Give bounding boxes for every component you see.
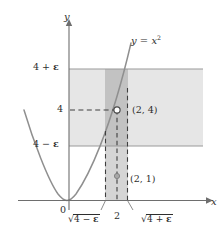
function-label-eq: =: [137, 35, 152, 46]
x-axis-label: x: [211, 197, 217, 207]
ytick-label-4-plus-epsilon: 4 + ε: [33, 62, 59, 72]
function-label-exponent: 2: [157, 34, 161, 41]
point-2-1-label: (2, 1): [130, 174, 156, 184]
point-2-1-marker: [114, 173, 119, 178]
tick-leader-sqrt-minus: [101, 201, 106, 211]
ytick-label-4-minus-epsilon: 4 − ε: [33, 139, 59, 149]
tick-leader-sqrt-plus: [128, 201, 134, 211]
origin-label: 0: [60, 205, 66, 215]
radical-sign-icon: √4 − ε: [67, 214, 100, 224]
epsilon-glyph: ε: [53, 61, 59, 72]
xtick-label-sqrt-4-minus-epsilon: √4 − ε: [67, 214, 100, 224]
radical-sign-icon: √4 + ε: [140, 214, 173, 224]
point-2-4-label: (2, 4): [132, 105, 158, 115]
epsilon-glyph: ε: [93, 214, 98, 224]
ytick-label-4: 4: [57, 104, 63, 114]
y-axis-label: y: [64, 12, 70, 22]
function-label: y = x2: [131, 36, 161, 46]
limit-diagram-figure: [0, 0, 223, 243]
epsilon-glyph: ε: [166, 214, 171, 224]
xtick-label-sqrt-4-plus-epsilon: √4 + ε: [140, 214, 173, 224]
epsilon-glyph: ε: [53, 138, 59, 149]
xtick-label-two: 2: [114, 211, 120, 221]
point-2-4-marker: [114, 107, 120, 113]
